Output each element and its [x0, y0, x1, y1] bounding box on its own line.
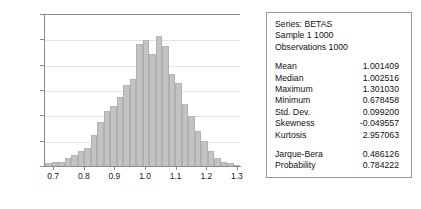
- statistic-label: Mean: [275, 61, 341, 72]
- y-axis-tick: [40, 90, 44, 91]
- x-axis-tick: [206, 166, 207, 170]
- statistic-row: Mean1.001409: [275, 61, 411, 72]
- statistic-row: Skewness-0.049557: [275, 118, 411, 129]
- statistic-row: Median1.002516: [275, 73, 411, 84]
- x-axis-tick: [84, 166, 85, 170]
- statistics-header-line: Sample 1 1000: [275, 30, 411, 41]
- y-axis-tick: [40, 65, 44, 66]
- statistic-row: Kurtosis2.957063: [275, 130, 411, 141]
- statistic-value: 1.002516: [341, 73, 411, 84]
- statistics-panel: Series: BETASSample 1 1000Observations 1…: [266, 12, 412, 178]
- histogram-statistics-view: 0204060801001200.70.80.91.01.11.21.3 Ser…: [0, 0, 421, 209]
- x-axis-tick: [53, 166, 54, 170]
- statistic-label: Skewness: [275, 118, 341, 129]
- statistic-value: 2.957063: [341, 130, 411, 141]
- spacer: [275, 53, 411, 61]
- x-axis-tick-label: 1.3: [222, 172, 252, 181]
- statistic-value: 1.301030: [341, 84, 411, 95]
- spacer: [275, 141, 411, 149]
- y-axis-tick: [40, 39, 44, 40]
- statistics-primary-rows: Mean1.001409Median1.002516Maximum1.30103…: [275, 61, 411, 141]
- x-axis-tick-label: 1.1: [161, 172, 191, 181]
- statistics-header-line: Observations 1000: [275, 42, 411, 53]
- y-axis-tick: [40, 166, 44, 167]
- x-axis-tick-label: 1.2: [191, 172, 221, 181]
- statistics-header: Series: BETASSample 1 1000Observations 1…: [275, 19, 411, 53]
- x-axis-tick: [114, 166, 115, 170]
- statistic-value: 1.001409: [341, 61, 411, 72]
- x-axis-tick: [176, 166, 177, 170]
- x-axis-tick-label: 0.7: [38, 172, 68, 181]
- statistic-label: Std. Dev.: [275, 107, 341, 118]
- statistic-label: Median: [275, 73, 341, 84]
- statistic-row: Std. Dev.0.099200: [275, 107, 411, 118]
- x-axis-line: [44, 166, 241, 167]
- x-axis-tick-label: 1.0: [130, 172, 160, 181]
- x-axis-tick-label: 0.9: [99, 172, 129, 181]
- x-axis-tick: [237, 166, 238, 170]
- statistic-value: 0.486126: [341, 149, 411, 160]
- x-axis-tick-label: 0.8: [69, 172, 99, 181]
- y-axis-tick: [40, 115, 44, 116]
- statistic-label: Maximum: [275, 84, 341, 95]
- statistic-value: 0.678458: [341, 95, 411, 106]
- plot-area: [44, 14, 240, 166]
- statistic-label: Kurtosis: [275, 130, 341, 141]
- statistic-label: Jarque-Bera: [275, 149, 341, 160]
- statistic-value: -0.049557: [341, 118, 411, 129]
- statistic-row: Jarque-Bera0.486126: [275, 149, 411, 160]
- statistics-header-line: Series: BETAS: [275, 19, 411, 30]
- statistic-value: 0.099200: [341, 107, 411, 118]
- statistic-value: 0.784222: [341, 160, 411, 171]
- statistic-row: Maximum1.301030: [275, 84, 411, 95]
- y-axis-tick: [40, 141, 44, 142]
- statistic-label: Minimum: [275, 95, 341, 106]
- histogram-bars: [45, 15, 240, 166]
- statistic-row: Minimum0.678458: [275, 95, 411, 106]
- histogram-chart: 0204060801001200.70.80.91.01.11.21.3: [0, 0, 258, 209]
- statistic-label: Probability: [275, 160, 341, 171]
- x-axis-tick: [145, 166, 146, 170]
- y-axis-tick: [40, 14, 44, 15]
- statistic-row: Probability0.784222: [275, 160, 411, 171]
- statistics-test-rows: Jarque-Bera0.486126Probability0.784222: [275, 149, 411, 172]
